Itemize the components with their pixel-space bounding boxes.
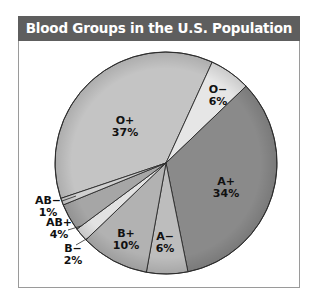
slice-label-b-neg-pct: 2% xyxy=(64,254,83,267)
slice-label-o-neg-pct: 6% xyxy=(209,95,228,108)
slice-label-ab-neg-pct: 1% xyxy=(39,206,58,219)
slice-label-ab-pos-pct: 4% xyxy=(50,228,69,241)
slice-label-o-pos-pct: 37% xyxy=(112,126,138,139)
slice-label-a-pos-pct: 34% xyxy=(213,187,239,200)
slice-label-a-neg-pct: 6% xyxy=(156,242,175,255)
pie-chart: O+ 37% O− 6% A+ 34% A− 6% B+ 10% B− 2% A… xyxy=(0,0,315,301)
slice-label-b-pos-pct: 10% xyxy=(113,239,139,252)
